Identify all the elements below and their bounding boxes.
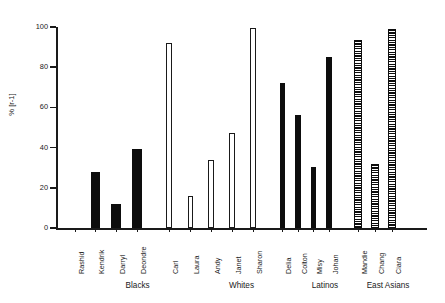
x-axis-line [56, 228, 427, 230]
x-axis-tick-label: Laura [193, 256, 201, 274]
x-axis-tick-label: Kendrik [98, 250, 106, 274]
x-axis-tick-label: Rashid [78, 252, 86, 274]
bar [208, 160, 214, 228]
x-axis-tick [169, 229, 170, 232]
bar-chart-figure: 020406080100 % [r-1] RashidKendrikDarryl… [0, 0, 445, 303]
x-axis-tick-label: Chang [378, 253, 386, 274]
group-label: Blacks [126, 281, 150, 290]
x-axis-tick [313, 229, 314, 232]
x-axis-tick [253, 229, 254, 232]
x-axis-tick [116, 229, 117, 232]
y-axis-tick-label: 20 [26, 184, 48, 191]
x-axis-tick [95, 229, 96, 232]
bar [111, 204, 121, 228]
y-axis-tick-label: 40 [26, 144, 48, 151]
y-axis-tick-label: 100 [26, 23, 48, 30]
bar [354, 40, 362, 228]
bar [132, 149, 142, 228]
x-axis-tick [392, 229, 393, 232]
y-axis-label: % [r-1] [7, 75, 16, 135]
x-axis-tick [358, 229, 359, 232]
x-axis-tick [282, 229, 283, 232]
plot-area [56, 27, 427, 228]
bar [326, 57, 332, 228]
x-axis-tick [211, 229, 212, 232]
x-axis-tick-label: Sharon [256, 251, 264, 274]
x-axis-tick [75, 229, 76, 232]
x-axis-tick-label: Carl [172, 261, 180, 274]
bar [229, 133, 235, 228]
group-label: Whites [229, 281, 254, 290]
bar [166, 43, 172, 228]
x-axis-tick-label: Colton [301, 253, 309, 274]
x-axis-tick [190, 229, 191, 232]
bar [371, 164, 379, 228]
bar [295, 115, 301, 228]
group-label: East Asians [367, 281, 410, 290]
x-axis-tick [298, 229, 299, 232]
x-axis-tick-label: Deondre [140, 246, 148, 274]
x-axis-tick-label: Johan [332, 254, 340, 274]
bar [91, 172, 101, 228]
x-axis-tick-label: Delia [285, 258, 293, 274]
y-axis-tick-label: 0 [26, 224, 48, 231]
x-axis-tick-label: Misy [316, 259, 324, 274]
x-axis-tick-label: Janet [235, 256, 243, 274]
x-axis-tick [375, 229, 376, 232]
x-axis-tick [137, 229, 138, 232]
x-axis-tick [232, 229, 233, 232]
x-axis-tick [329, 229, 330, 232]
bar [311, 167, 317, 228]
y-axis-tick-label: 60 [26, 103, 48, 110]
group-label: Latinos [312, 281, 338, 290]
x-axis-tick-label: Ciara [395, 257, 403, 274]
x-axis-tick-label: Andy [214, 258, 222, 274]
bar [250, 28, 256, 228]
bar [280, 83, 286, 228]
bar [388, 29, 396, 228]
y-axis-tick-label: 80 [26, 63, 48, 70]
x-axis-tick-label: Mandie [361, 250, 369, 274]
bar [188, 196, 194, 228]
x-axis-tick-label: Darryl [119, 255, 127, 274]
